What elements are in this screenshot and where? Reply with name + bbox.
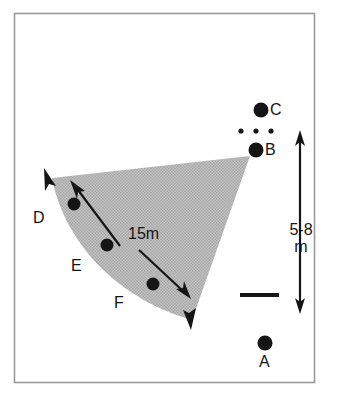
point-marker-a — [258, 336, 273, 351]
vertical-dimension-label-line1: 5-8 — [285, 222, 317, 238]
wedge-dot-d — [68, 198, 81, 211]
figure-container: C B A D E F 15m 5-8 m — [0, 0, 349, 405]
point-label-a: A — [259, 354, 270, 370]
point-label-c: C — [270, 102, 282, 118]
ellipsis-dot — [253, 128, 258, 133]
point-label-e: E — [71, 258, 82, 274]
point-label-d: D — [33, 210, 45, 226]
point-marker-b — [249, 143, 264, 158]
diagram-canvas — [0, 0, 349, 405]
ellipsis-dot — [238, 128, 243, 133]
wedge-dot-f — [147, 278, 160, 291]
point-label-b: B — [265, 142, 276, 158]
vertical-dimension-label-line2: m — [285, 239, 317, 255]
ellipsis-dot — [268, 128, 273, 133]
distance-label-15m: 15m — [128, 226, 159, 242]
point-marker-c — [254, 103, 269, 118]
wedge-dot-e — [101, 239, 114, 252]
point-label-f: F — [114, 295, 124, 311]
